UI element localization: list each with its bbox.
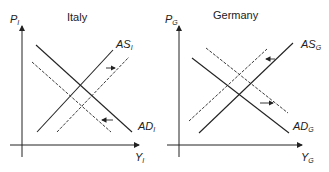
germany-ad-shifted bbox=[206, 48, 288, 113]
germany-as-label: ASG bbox=[301, 39, 321, 51]
italy-panel: Italy PI YI ASI ADI bbox=[0, 0, 165, 172]
germany-ad-label: ADG bbox=[293, 121, 314, 133]
germany-ad-label-sub: G bbox=[308, 126, 313, 133]
germany-x-axis-label-sub: G bbox=[308, 157, 313, 164]
italy-as-label-sub: I bbox=[131, 44, 133, 51]
italy-y-axis-label: PI bbox=[10, 14, 19, 26]
germany-ad-label-base: AD bbox=[293, 120, 308, 132]
italy-ad-label: ADI bbox=[138, 121, 155, 133]
germany-title: Germany bbox=[213, 10, 258, 21]
italy-ad-original bbox=[36, 45, 132, 132]
italy-as-label-base: AS bbox=[116, 38, 131, 50]
germany-y-axis-label-sub: G bbox=[172, 19, 177, 26]
germany-as-original bbox=[199, 43, 293, 133]
italy-x-axis-label: YI bbox=[135, 152, 144, 164]
germany-y-axis-label: PG bbox=[165, 14, 178, 26]
italy-ad-shifted bbox=[32, 62, 111, 132]
italy-title: Italy bbox=[67, 12, 87, 23]
italy-diagram bbox=[0, 0, 165, 172]
italy-x-axis-label-sub: I bbox=[142, 157, 144, 164]
italy-as-shifted bbox=[57, 57, 129, 132]
germany-diagram bbox=[165, 0, 329, 172]
italy-y-axis-label-sub: I bbox=[17, 19, 19, 26]
germany-panel: Germany PG YG ASG ADG bbox=[165, 0, 329, 172]
germany-as-label-base: AS bbox=[301, 38, 316, 50]
italy-ad-label-sub: I bbox=[153, 126, 155, 133]
germany-as-shifted bbox=[189, 49, 267, 121]
italy-as-label: ASI bbox=[116, 39, 133, 51]
germany-x-axis-label: YG bbox=[301, 152, 314, 164]
germany-as-label-sub: G bbox=[316, 44, 321, 51]
germany-ad-original bbox=[192, 58, 289, 133]
italy-as-original bbox=[37, 50, 113, 132]
italy-ad-label-base: AD bbox=[138, 120, 153, 132]
